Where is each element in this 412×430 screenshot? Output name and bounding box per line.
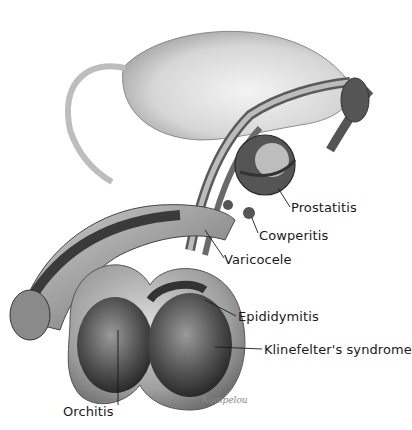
- label-varicocele: Varicocele: [224, 252, 292, 267]
- label-klinefelter: Klinefelter's syndrome: [264, 342, 412, 357]
- testis-left: [77, 297, 153, 393]
- ureter: [68, 66, 125, 182]
- seminal-vesicle: [341, 78, 369, 122]
- testis-right: [148, 293, 232, 397]
- label-epididymitis: Epididymitis: [238, 309, 319, 324]
- cowper-gland: [223, 200, 233, 210]
- label-cowperitis: Cowperitis: [259, 228, 328, 243]
- label-orchitis: Orchitis: [63, 404, 114, 419]
- artist-signature: Kompelou: [202, 395, 248, 405]
- label-prostatitis: Prostatitis: [291, 200, 357, 215]
- cowper-gland: [243, 207, 255, 219]
- prostate: [235, 135, 295, 195]
